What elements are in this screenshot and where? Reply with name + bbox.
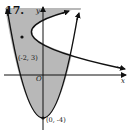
shaded-region — [0, 0, 130, 130]
point-label-upward-vertex: (0, -4) — [46, 117, 66, 124]
graph-figure — [0, 0, 130, 130]
origin-label: O — [36, 76, 42, 83]
y-axis-label: y — [36, 8, 40, 15]
point-label-sideways-vertex: (-2, 3) — [18, 55, 38, 62]
vertex-point-upward — [41, 116, 44, 119]
problem-number: 17. — [5, 5, 24, 16]
x-axis-label: x — [121, 78, 125, 85]
vertex-point-sideways — [20, 35, 23, 38]
